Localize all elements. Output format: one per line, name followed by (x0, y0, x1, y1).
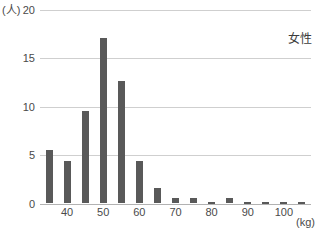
y-tick-label-15: 15 (0, 52, 35, 64)
bar-105kg (298, 202, 305, 204)
y-tick-label-5: 5 (0, 149, 35, 161)
bar-45kg (82, 111, 89, 204)
x-tick-label-60: 60 (124, 206, 154, 218)
bar-55kg (118, 81, 125, 204)
bar-95kg (262, 202, 269, 204)
x-tick-label-40: 40 (52, 206, 82, 218)
gridline-y-5 (40, 155, 311, 156)
gridline-y-10 (40, 107, 311, 108)
y-tick-label-20: 20 (0, 4, 35, 16)
weight-histogram-female: (人) 女性 (kg) 20151050405060708090100 (0, 0, 317, 235)
gridline-y-20 (40, 10, 311, 11)
bar-80kg (208, 202, 215, 204)
y-tick-label-0: 0 (0, 198, 35, 210)
plot-area (40, 10, 311, 204)
x-tick-label-100: 100 (269, 206, 299, 218)
x-tick-label-80: 80 (197, 206, 227, 218)
bar-85kg (226, 198, 233, 204)
bar-50kg (100, 38, 107, 203)
y-tick-label-10: 10 (0, 101, 35, 113)
bar-100kg (280, 202, 287, 204)
gridline-y-15 (40, 58, 311, 59)
x-tick-label-50: 50 (88, 206, 118, 218)
bar-70kg (172, 198, 179, 204)
x-tick-label-90: 90 (233, 206, 263, 218)
bar-35kg (46, 150, 53, 203)
gridline-y-0 (40, 204, 311, 205)
bar-90kg (244, 202, 251, 204)
x-tick-label-70: 70 (161, 206, 191, 218)
bar-40kg (64, 161, 71, 204)
bar-75kg (190, 198, 197, 204)
bar-65kg (154, 188, 161, 203)
bar-60kg (136, 161, 143, 204)
